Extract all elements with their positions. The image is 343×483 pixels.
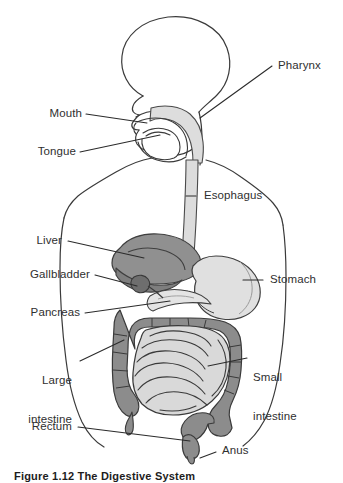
label-large-intestine-line1: Large [2, 374, 72, 387]
leader-line-pharynx [200, 66, 272, 118]
small-intestine-organ [133, 326, 230, 415]
label-rectum: Rectum [4, 420, 72, 433]
leader-line-rectum [78, 427, 190, 441]
label-small-intestine-line1: Small [253, 371, 297, 384]
stomach-organ [192, 256, 260, 320]
label-liver: Liver [8, 234, 62, 247]
label-esophagus: Esophagus [204, 189, 262, 202]
label-pharynx: Pharynx [278, 59, 321, 72]
figure-caption: Figure 1.12 The Digestive System [14, 470, 195, 482]
label-gallbladder: Gallbladder [4, 268, 90, 281]
digestive-system-figure: Pharynx Mouth Tongue Esophagus Liver Gal… [0, 0, 343, 483]
label-large-intestine: Large intestine [2, 348, 72, 452]
label-mouth: Mouth [10, 107, 82, 120]
rectum-and-anus-organ [181, 413, 214, 464]
label-tongue: Tongue [6, 145, 76, 158]
label-stomach: Stomach [270, 273, 316, 286]
label-anus: Anus [222, 444, 249, 457]
label-small-intestine: Small intestine [253, 345, 297, 449]
label-pancreas: Pancreas [6, 306, 80, 319]
leader-line-anus [200, 452, 216, 458]
label-small-intestine-line2: intestine [253, 410, 297, 423]
